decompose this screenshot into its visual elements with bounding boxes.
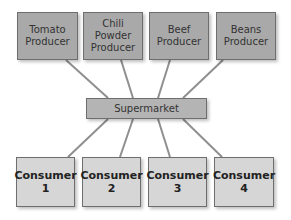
- node-label: Consumer 2: [80, 169, 142, 195]
- node-consumer-2: Consumer 2: [82, 157, 141, 207]
- edge-chili-supermarket: [121, 60, 133, 98]
- node-label: Chili Powder Producer: [91, 18, 135, 54]
- edge-tomato-supermarket: [66, 60, 108, 98]
- node-label: Consumer 3: [146, 169, 208, 195]
- node-label: Consumer 4: [213, 169, 275, 195]
- edge-supermarket-consumer3: [158, 119, 170, 157]
- edge-supermarket-consumer1: [68, 119, 108, 157]
- node-label: Tomato Producer: [25, 24, 69, 48]
- node-beans-producer: Beans Producer: [216, 12, 276, 60]
- node-tomato-producer: Tomato Producer: [17, 12, 78, 60]
- node-supermarket: Supermarket: [86, 98, 207, 119]
- node-beef-producer: Beef Producer: [149, 12, 209, 60]
- node-label: Beef Producer: [157, 24, 201, 48]
- edge-supermarket-consumer4: [183, 119, 222, 157]
- edge-beef-supermarket: [158, 60, 170, 98]
- edge-beans-supermarket: [183, 60, 223, 98]
- node-label: Beans Producer: [224, 24, 268, 48]
- node-chili-powder-producer: Chili Powder Producer: [83, 12, 143, 60]
- node-consumer-1: Consumer 1: [16, 157, 75, 207]
- node-label: Consumer 1: [14, 169, 76, 195]
- node-label: Supermarket: [114, 103, 179, 114]
- node-consumer-3: Consumer 3: [148, 157, 207, 207]
- node-consumer-4: Consumer 4: [214, 157, 274, 207]
- edge-supermarket-consumer2: [120, 119, 133, 157]
